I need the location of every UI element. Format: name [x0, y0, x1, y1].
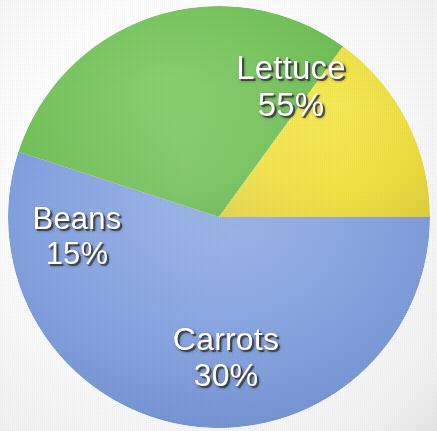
- slice-label-beans: Beans 15%: [8, 202, 146, 271]
- slice-label-carrots-value: 30%: [142, 358, 310, 394]
- slice-label-carrots-name: Carrots: [142, 322, 310, 358]
- slice-label-beans-value: 15%: [8, 237, 146, 272]
- slice-label-lettuce-value: 55%: [206, 87, 376, 124]
- slice-label-beans-name: Beans: [8, 202, 146, 237]
- slice-label-lettuce-name: Lettuce: [206, 50, 376, 87]
- slice-label-carrots: Carrots 30%: [142, 322, 310, 394]
- pie-chart-figure: Lettuce 55% Beans 15% Carrots 30%: [0, 0, 437, 431]
- slice-label-lettuce: Lettuce 55%: [206, 50, 376, 124]
